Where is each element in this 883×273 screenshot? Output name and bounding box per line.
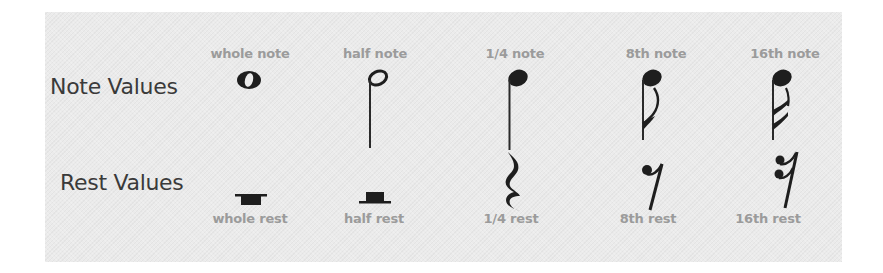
half-note-icon (362, 68, 392, 150)
half-rest-label: half rest (309, 211, 439, 226)
half-rest-icon (357, 191, 393, 205)
quarter-note-label: 1/4 note (450, 46, 580, 61)
eighth-rest-label: 8th rest (583, 211, 713, 226)
sixteenth-rest-label: 16th rest (703, 211, 833, 226)
sixteenth-note-label: 16th note (720, 46, 850, 61)
whole-rest-icon (233, 193, 269, 207)
quarter-rest-label: 1/4 rest (446, 211, 576, 226)
eighth-note-label: 8th note (591, 46, 721, 61)
note-values-title: Note Values (50, 74, 178, 99)
sixteenth-note-icon (764, 66, 798, 142)
quarter-note-icon (502, 66, 532, 152)
whole-note-label: whole note (185, 46, 315, 61)
eighth-note-icon (634, 66, 668, 142)
whole-note-icon (234, 69, 264, 91)
half-note-label: half note (310, 46, 440, 61)
quarter-rest-icon (500, 150, 526, 212)
rest-values-title: Rest Values (60, 170, 184, 195)
whole-rest-label: whole rest (185, 211, 315, 226)
sixteenth-rest-icon (772, 150, 804, 212)
eighth-rest-icon (640, 160, 670, 212)
